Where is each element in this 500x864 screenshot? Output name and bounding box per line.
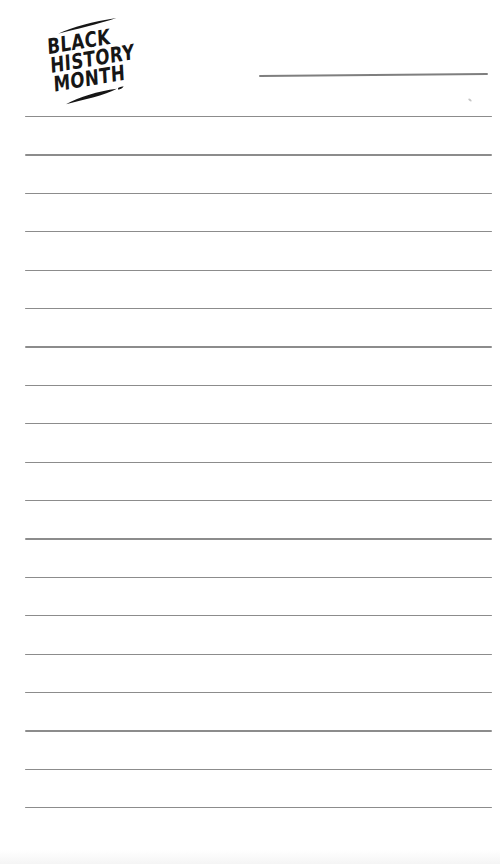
ruled-line <box>25 116 492 117</box>
ruled-line <box>25 231 492 232</box>
ruled-line <box>25 270 492 271</box>
ruled-line <box>25 423 492 424</box>
ruled-line <box>25 577 492 578</box>
ruled-line <box>25 462 492 463</box>
ruled-line <box>25 193 492 194</box>
ruled-line <box>25 385 492 386</box>
worksheet-page: BLACK HISTORY MONTH <box>0 0 500 864</box>
logo-rotated-group: BLACK HISTORY MONTH <box>44 11 162 106</box>
paper-speck <box>468 98 472 102</box>
ruled-line <box>25 615 492 616</box>
black-history-month-logo: BLACK HISTORY MONTH <box>40 12 188 118</box>
ruled-line <box>25 500 492 501</box>
logo-text: BLACK HISTORY MONTH <box>46 21 160 95</box>
page-bottom-shading <box>0 850 500 864</box>
ruled-line <box>25 538 492 539</box>
ruled-line <box>25 730 492 731</box>
name-writing-line <box>259 73 488 77</box>
ruled-line <box>25 769 492 770</box>
ruled-line <box>25 692 492 693</box>
ruled-line <box>25 346 492 347</box>
ruled-line <box>25 654 492 655</box>
ruled-line <box>25 154 492 155</box>
ruled-line <box>25 807 492 808</box>
ruled-line <box>25 308 492 309</box>
